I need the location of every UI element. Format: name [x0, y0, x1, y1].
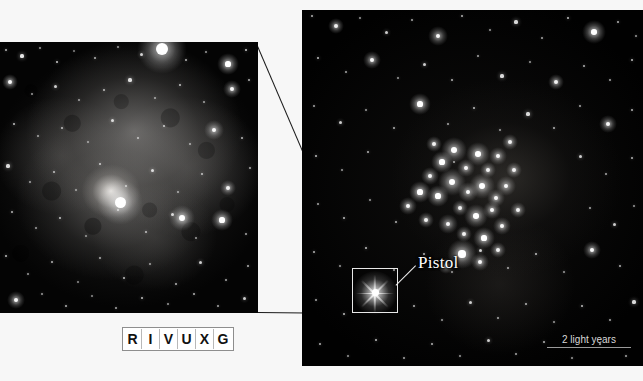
star: [5, 49, 7, 51]
star: [175, 283, 178, 286]
quintuplet-cluster-panel: Pistol 2 light years: [302, 10, 643, 366]
pistol-callout-box: [352, 268, 398, 313]
star: [54, 85, 57, 88]
star: [247, 265, 250, 268]
star: [201, 173, 204, 176]
star: [115, 197, 126, 208]
star: [91, 295, 93, 297]
star: [203, 101, 205, 103]
star: [508, 140, 512, 144]
star: [111, 119, 114, 122]
star: [87, 141, 89, 143]
star: [5, 255, 8, 258]
star: [496, 248, 500, 252]
star: [65, 305, 68, 308]
star: [115, 307, 117, 309]
star: [458, 206, 462, 210]
star: [51, 261, 54, 264]
star: [462, 232, 466, 236]
star: [512, 168, 516, 172]
star: [179, 215, 185, 221]
wavelength-cell-u: U: [178, 329, 196, 349]
star: [199, 261, 202, 264]
star: [78, 99, 80, 101]
star: [29, 181, 31, 183]
scale-bar-group: 2 light years: [547, 334, 631, 348]
star: [458, 250, 465, 257]
wavelength-cell-r: R: [124, 329, 142, 349]
star: [185, 59, 188, 62]
star: [219, 217, 224, 222]
star: [245, 233, 247, 235]
star: [137, 137, 139, 139]
star: [417, 189, 422, 194]
star: [75, 189, 77, 191]
star: [103, 89, 106, 92]
star: [205, 51, 207, 53]
star: [41, 293, 43, 295]
star: [432, 142, 436, 146]
wavelength-cell-v: V: [160, 329, 178, 349]
pistol-nebula-inset-panel: [0, 42, 258, 313]
scale-bar-label: 2 light years: [547, 334, 631, 345]
star: [56, 61, 59, 64]
star: [61, 127, 64, 130]
star: [53, 171, 56, 174]
star: [177, 191, 179, 193]
star: [123, 277, 126, 280]
star: [156, 43, 168, 55]
scale-bar-line: [547, 347, 631, 348]
star: [11, 211, 14, 214]
star: [479, 183, 485, 189]
star: [225, 61, 230, 66]
wavelength-cell-i: I: [142, 329, 160, 349]
star: [225, 279, 227, 281]
star: [85, 235, 87, 237]
star: [195, 237, 197, 239]
star: [473, 213, 479, 219]
wavelength-cell-g: G: [214, 329, 232, 349]
star: [27, 273, 29, 275]
star: [193, 293, 196, 296]
star: [73, 50, 75, 52]
star: [189, 143, 191, 145]
star: [163, 125, 166, 128]
star: [435, 193, 440, 198]
star: [94, 57, 97, 60]
star: [226, 186, 230, 190]
star: [35, 227, 37, 229]
star: [20, 54, 23, 57]
star: [481, 235, 486, 240]
star: [13, 123, 16, 126]
star: [117, 46, 119, 48]
pistol-label: Pistol: [418, 253, 459, 273]
star: [59, 217, 62, 220]
star: [128, 78, 131, 81]
star: [249, 167, 251, 169]
star: [241, 137, 244, 140]
star: [99, 257, 101, 259]
star: [8, 80, 12, 84]
star: [31, 93, 33, 95]
star: [141, 297, 144, 300]
star: [516, 208, 520, 212]
star: [154, 97, 156, 99]
star: [99, 163, 102, 166]
star: [6, 164, 9, 167]
wavelength-band-rivuxg: RIVUXG: [122, 327, 234, 351]
star: [77, 281, 79, 283]
star: [486, 168, 490, 172]
wavelength-cell-x: X: [196, 329, 214, 349]
figure-stage: Pistol 2 light years RIVUXG: [0, 0, 643, 381]
star: [439, 159, 444, 164]
star: [179, 84, 182, 87]
star: [149, 263, 151, 265]
star: [245, 49, 248, 52]
inset-starfield: [0, 42, 258, 313]
star: [217, 305, 219, 307]
star: [145, 231, 148, 234]
star: [243, 297, 246, 300]
star: [167, 303, 169, 305]
star: [248, 79, 251, 82]
star: [39, 47, 41, 49]
